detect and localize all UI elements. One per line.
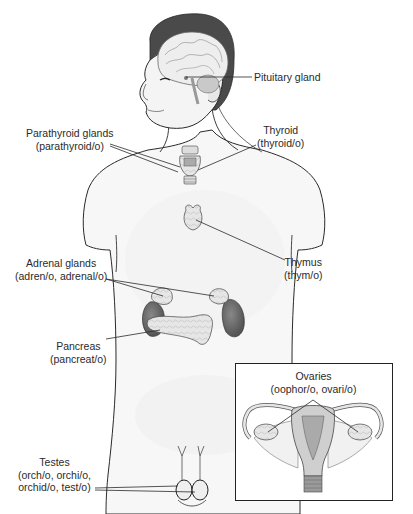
label-thymus: Thymus (thym/o)	[284, 256, 323, 281]
adrenal-name: Adrenal glands	[15, 257, 107, 270]
pancreas-name: Pancreas	[50, 340, 107, 353]
testes-name: Testes	[18, 456, 91, 469]
ovaries-inset: Ovaries (oophor/o, ovari/o)	[235, 363, 393, 501]
parathyroid-name: Parathyroid glands	[26, 127, 114, 140]
right-ovary	[348, 424, 372, 440]
label-pancreas: Pancreas (pancreat/o)	[50, 340, 107, 365]
thymus-name: Thymus	[284, 256, 323, 269]
pancreas-combining-forms: (pancreat/o)	[50, 353, 107, 366]
label-testes: Testes (orch/o, orchi/o, orchid/o, test/…	[18, 456, 91, 494]
parathyroid-combining-forms: (parathyroid/o)	[26, 140, 114, 153]
thyroid-name: Thyroid	[257, 124, 304, 137]
thymus-combining-forms: (thym/o)	[284, 269, 323, 282]
thymus-gland	[184, 205, 202, 230]
thyroid-combining-forms: (thyroid/o)	[257, 137, 304, 150]
adrenal-combining-forms: (adren/o, adrenal/o)	[15, 270, 107, 283]
pituitary-name: Pituitary gland	[254, 71, 321, 84]
uterus-illustration	[236, 364, 391, 499]
testes-combining-forms-1: (orch/o, orchi/o,	[18, 469, 91, 482]
left-ovary	[254, 424, 278, 440]
label-thyroid: Thyroid (thyroid/o)	[257, 124, 304, 149]
head	[140, 14, 234, 129]
label-parathyroid-glands: Parathyroid glands (parathyroid/o)	[26, 127, 114, 152]
label-adrenal-glands: Adrenal glands (adren/o, adrenal/o)	[15, 257, 107, 282]
testes-combining-forms-2: orchid/o, test/o)	[18, 481, 91, 494]
label-pituitary-gland: Pituitary gland	[254, 71, 321, 84]
